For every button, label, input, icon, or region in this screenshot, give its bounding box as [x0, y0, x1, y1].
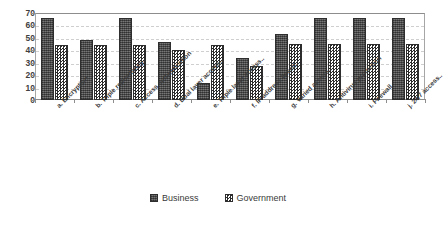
x-tick-mark	[308, 99, 309, 103]
bar-business[interactable]	[392, 18, 405, 100]
bar-business[interactable]	[314, 18, 327, 100]
legend-item-business[interactable]: Business	[150, 194, 199, 203]
bar-business[interactable]	[119, 18, 132, 100]
legend-swatch-business-icon	[150, 194, 158, 202]
bar-group	[35, 13, 74, 100]
x-tick-mark	[152, 99, 153, 103]
x-tick-mark	[386, 99, 387, 103]
chart-legend: Business Government	[0, 191, 436, 205]
legend-item-government[interactable]: Government	[225, 194, 287, 203]
x-tick-mark	[425, 99, 426, 103]
bar-business[interactable]	[41, 18, 54, 100]
y-axis: 706050403020100	[0, 0, 35, 110]
x-tick-mark	[74, 99, 75, 103]
x-tick-mark	[347, 99, 348, 103]
x-tick-mark	[113, 99, 114, 103]
bar-business[interactable]	[80, 40, 93, 100]
bar-business[interactable]	[353, 18, 366, 100]
x-tick-mark	[230, 99, 231, 103]
x-tick-mark	[191, 99, 192, 103]
x-tick-mark	[35, 99, 36, 103]
legend-swatch-government-icon	[225, 194, 233, 202]
legend-label-business: Business	[162, 194, 199, 203]
x-tick-mark	[269, 99, 270, 103]
legend-label-government: Government	[237, 194, 287, 203]
